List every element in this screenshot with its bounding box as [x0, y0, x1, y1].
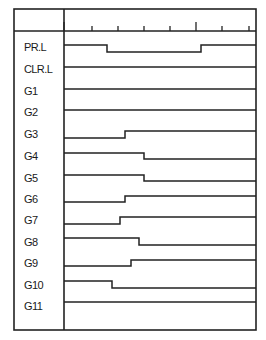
- signal-label: G5: [24, 172, 38, 184]
- waveform-g6: [64, 196, 256, 202]
- signal-label: G10: [24, 279, 43, 291]
- signal-waveforms: [64, 45, 256, 302]
- signal-label: PR.L: [24, 41, 47, 53]
- waveform-g4: [64, 153, 256, 159]
- waveform-g7: [64, 217, 256, 224]
- signal-label: CLR.L: [24, 63, 53, 75]
- signal-label: G9: [24, 257, 38, 269]
- signal-label: G7: [24, 214, 38, 226]
- signal-label: G3: [24, 128, 38, 140]
- waveform-g9: [64, 260, 256, 266]
- signal-label: G11: [24, 300, 43, 312]
- signal-label: G2: [24, 106, 38, 118]
- signal-label: G8: [24, 236, 38, 248]
- waveform-g8: [64, 238, 256, 245]
- signal-label: G6: [24, 193, 38, 205]
- signal-labels: PR.LCLR.LG1G2G3G4G5G6G7G8G9G10G11: [24, 41, 53, 312]
- signal-label: G4: [24, 150, 38, 162]
- waveform-pr-l: [64, 45, 256, 52]
- signal-label: G1: [24, 85, 38, 97]
- waveform-g3: [64, 131, 256, 138]
- waveform-g10: [64, 281, 256, 288]
- diagram-frame: [14, 9, 256, 330]
- timing-diagram: PR.LCLR.LG1G2G3G4G5G6G7G8G9G10G11: [0, 0, 266, 340]
- waveform-g5: [64, 175, 256, 181]
- time-axis-ticks: [64, 22, 249, 31]
